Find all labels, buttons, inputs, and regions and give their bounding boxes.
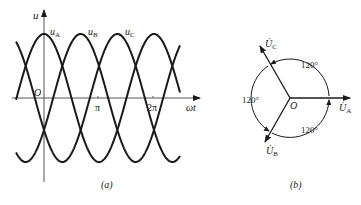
voltage-axis-label: u — [33, 9, 39, 21]
curve-label-uB: uB — [88, 26, 98, 39]
origin-label-b: O — [290, 100, 297, 111]
tick-label-pi: π — [95, 102, 100, 113]
angle-label-BA: 120° — [301, 125, 319, 135]
curve-label-uC: uC — [125, 26, 135, 39]
curve-label-uA: uA — [50, 26, 60, 39]
phasor-diagram: O U̇A U̇C U̇B 120° 120° 120° (b) — [242, 38, 351, 191]
angle-label-AC: 120° — [301, 60, 319, 70]
waveform-plot: u ωt O π 2π uA uB uC (a) — [12, 9, 200, 191]
phasor-label-UA: U̇A — [339, 102, 351, 115]
phasor-label-UC: U̇C — [265, 38, 277, 51]
angle-label-CB: 120° — [242, 95, 260, 105]
time-axis-label: ωt — [186, 102, 196, 113]
arc-A-to-C — [271, 59, 329, 96]
tick-label-2pi: 2π — [147, 102, 157, 113]
caption-b: (b) — [290, 179, 302, 191]
origin-label-a: O — [34, 87, 41, 98]
phasor-label-UB: U̇B — [266, 145, 278, 158]
phasor-UC — [260, 46, 290, 98]
caption-a: (a) — [101, 179, 113, 191]
three-phase-figure: u ωt O π 2π uA uB uC (a) O U̇A U̇C U̇B 1… — [0, 0, 361, 205]
